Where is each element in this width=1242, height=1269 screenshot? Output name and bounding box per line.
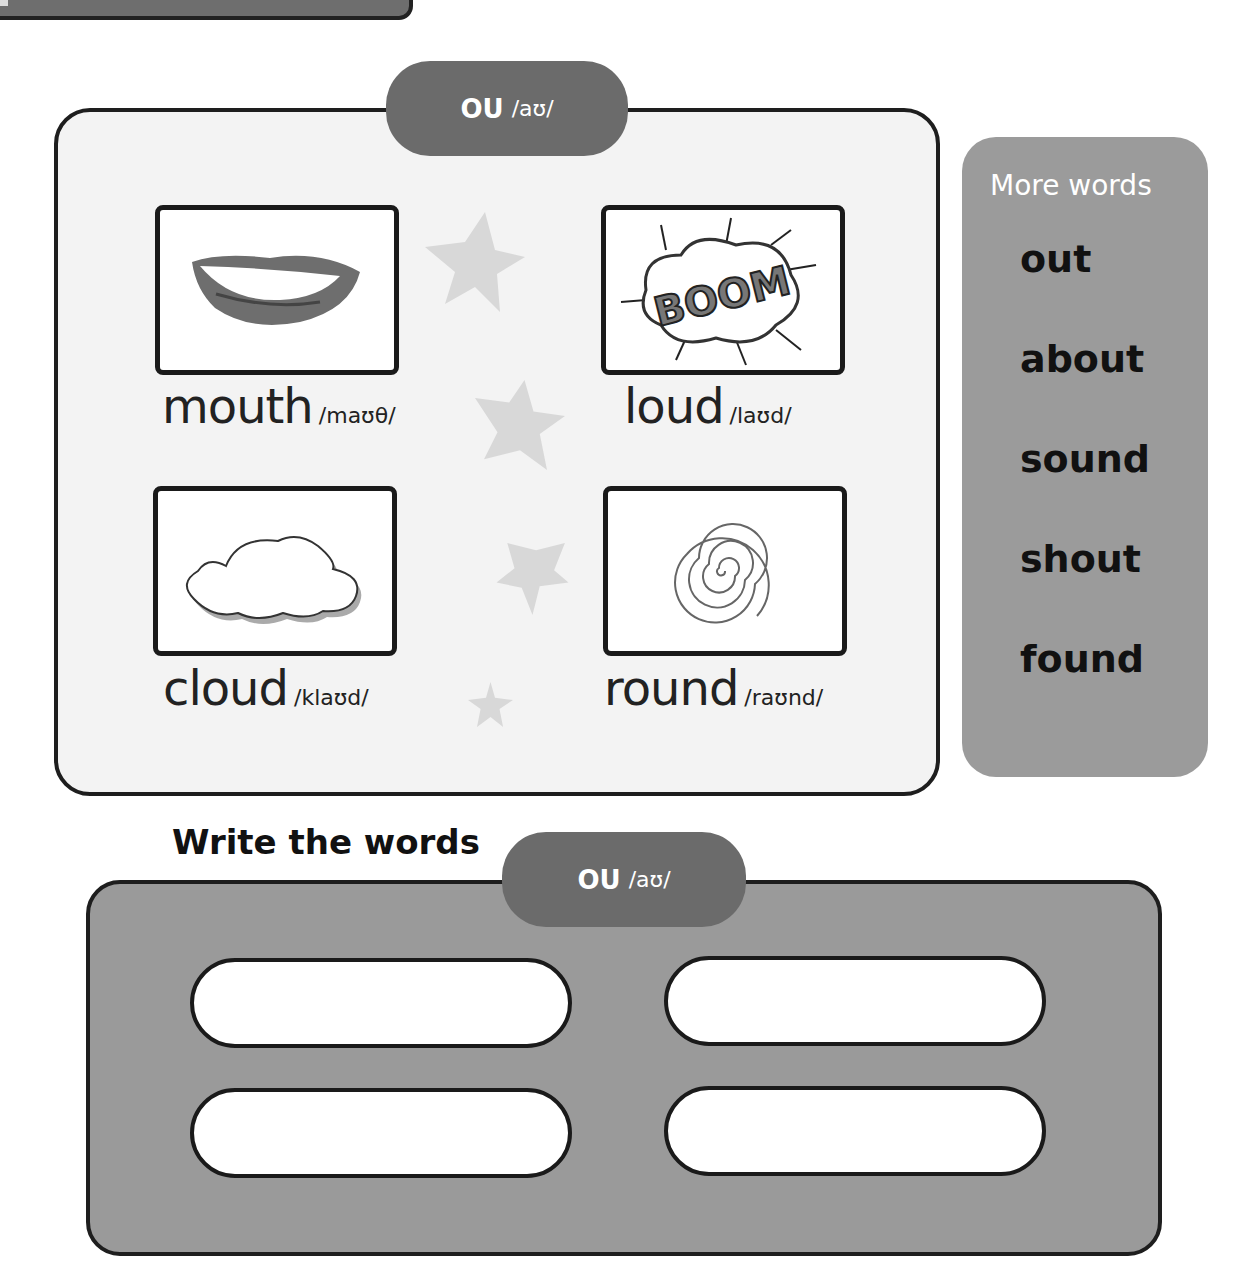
card-loud-caption: loud/laʊd/ — [624, 378, 792, 434]
cloud-icon — [158, 491, 392, 651]
card-cloud-caption: cloud/klaʊd/ — [163, 660, 369, 716]
phonics-title-pill: OU /aʊ/ — [386, 61, 628, 156]
card-mouth-image — [155, 205, 399, 375]
more-words-panel: More words out about sound shout found — [962, 137, 1208, 777]
card-round-caption: round/raʊnd/ — [604, 660, 823, 716]
card-word: mouth — [162, 378, 313, 434]
write-word-input-2[interactable] — [664, 956, 1046, 1046]
pill-letters: OU — [577, 865, 620, 895]
more-word-item: sound — [1020, 437, 1150, 481]
more-word-item: found — [1020, 637, 1144, 681]
pill-ipa: /aʊ/ — [629, 867, 671, 892]
card-ipa: /klaʊd/ — [294, 685, 369, 710]
star-icon — [490, 543, 575, 615]
card-word: loud — [624, 378, 724, 434]
star-icon — [468, 682, 513, 727]
more-words-title: More words — [990, 169, 1152, 202]
card-cloud-image — [153, 486, 397, 656]
mouth-icon — [160, 210, 394, 370]
card-ipa: /raʊnd/ — [744, 685, 823, 710]
card-word: cloud — [163, 660, 288, 716]
write-section-title: Write the words — [172, 822, 480, 862]
write-word-input-3[interactable] — [190, 1088, 572, 1178]
more-word-item: shout — [1020, 537, 1141, 581]
card-round-image — [603, 486, 847, 656]
write-word-input-1[interactable] — [190, 958, 572, 1048]
more-word-item: about — [1020, 337, 1144, 381]
star-icon — [420, 212, 530, 312]
top-banner — [0, 0, 413, 20]
card-mouth-caption: mouth/maʊθ/ — [162, 378, 396, 434]
pill-letters: OU — [460, 94, 503, 124]
boom-icon: BOOM — [606, 210, 840, 370]
card-ipa: /laʊd/ — [730, 403, 792, 428]
card-ipa: /maʊθ/ — [319, 403, 396, 428]
star-icon — [470, 380, 570, 470]
card-word: round — [604, 660, 738, 716]
write-section-pill: OU /aʊ/ — [502, 832, 746, 927]
pill-ipa: /aʊ/ — [512, 96, 554, 121]
write-words-panel — [86, 880, 1162, 1256]
banner-chip — [0, 0, 8, 6]
spiral-icon — [608, 491, 842, 651]
more-word-item: out — [1020, 237, 1091, 281]
write-word-input-4[interactable] — [664, 1086, 1046, 1176]
card-loud-image: BOOM — [601, 205, 845, 375]
